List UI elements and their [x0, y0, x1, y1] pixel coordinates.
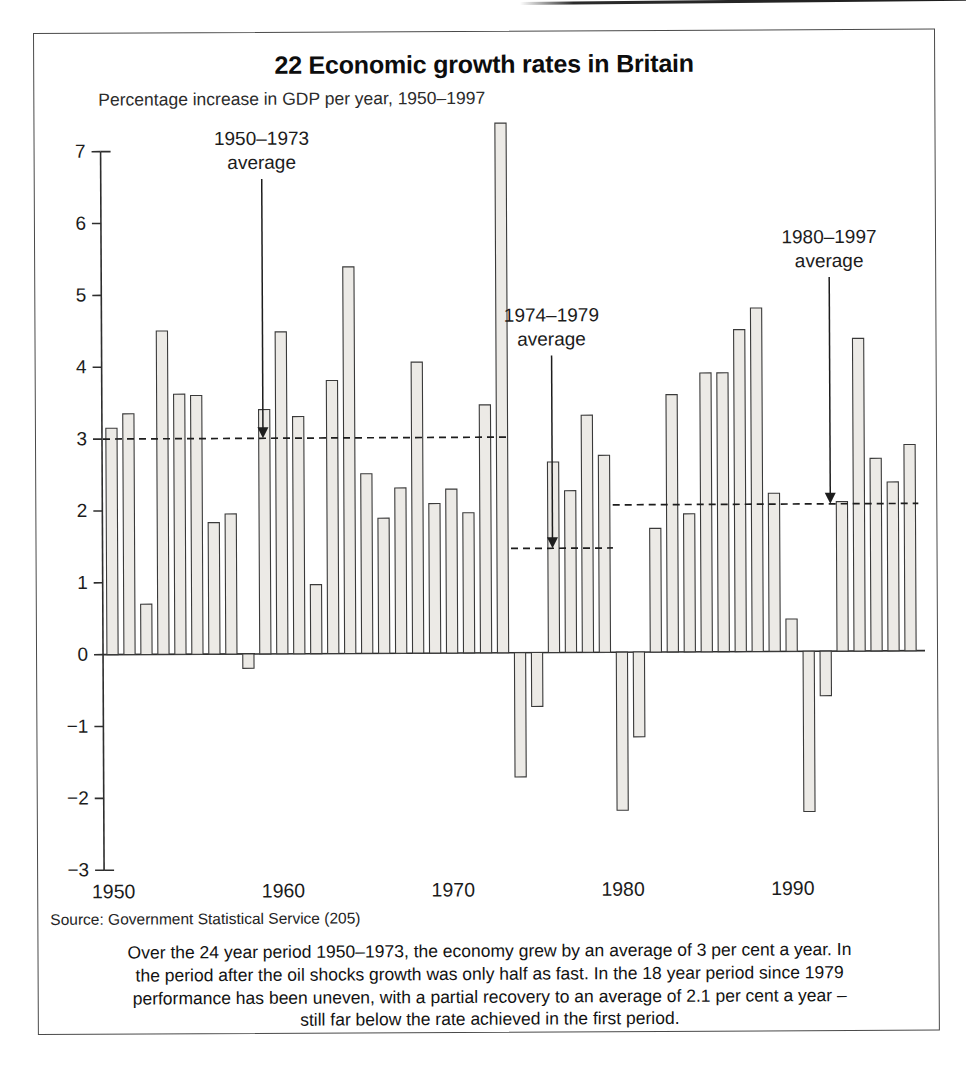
bar-1975	[531, 653, 542, 707]
y-tick-label-6: 6	[75, 213, 86, 234]
bar-1986	[717, 373, 730, 652]
bar-1960	[275, 332, 288, 654]
annotation-arrow-head-3	[825, 493, 836, 504]
bar-1954	[174, 394, 186, 654]
bar-1994	[852, 338, 865, 651]
figure-box: 22 Economic growth rates in Britain Perc…	[33, 29, 940, 1035]
bar-rect-1995	[870, 458, 882, 651]
bar-1953	[156, 331, 169, 654]
bar-1997	[904, 444, 916, 650]
x-tick-label-1970: 1970	[432, 878, 476, 900]
bar-1970	[446, 489, 458, 653]
bar-1996	[887, 482, 899, 651]
annotation-label-2-line2: average	[517, 328, 586, 349]
bar-1967	[395, 488, 407, 653]
annotation-arrow-shaft-2	[552, 355, 553, 539]
bar-rect-1958	[243, 654, 254, 668]
bar-rect-1962	[310, 585, 322, 654]
annotation-label-2-line1: 1974–1979	[504, 304, 599, 325]
caption-line-3: performance has been uneven, with a part…	[57, 983, 923, 1010]
bar-1995	[870, 458, 882, 651]
bar-rect-1959	[259, 410, 271, 654]
bar-rect-1951	[123, 414, 135, 655]
y-tick-label-4: 4	[76, 356, 87, 377]
scan-edge-artifact	[520, 0, 966, 5]
annotation-label-3-line2: average	[795, 250, 864, 271]
y-tick-label--2: −2	[67, 787, 89, 808]
bar-rect-1957	[225, 514, 237, 654]
x-tick-label-1960: 1960	[262, 879, 306, 901]
annotation-label-3-line1: 1980–1997	[781, 226, 876, 247]
bar-1951	[123, 414, 135, 655]
chart-annotations: 1950–1973average1974–1979average1980–199…	[214, 125, 878, 550]
caption-line-4: still far below the rate achieved in the…	[57, 1006, 923, 1033]
annotation-arrow-shaft-3	[829, 277, 830, 495]
y-tick-label-0: 0	[77, 644, 88, 665]
source-note: Source: Government Statistical Service (…	[50, 909, 360, 929]
bar-rect-1968	[411, 362, 424, 653]
y-tick-label-2: 2	[77, 500, 88, 521]
bar-1992	[820, 651, 831, 696]
bar-rect-1992	[820, 651, 831, 696]
y-tick-label-5: 5	[76, 284, 87, 305]
bar-rect-1982	[650, 528, 662, 652]
bar-rect-1994	[852, 338, 865, 651]
annotation-label-1-line1: 1950–1973	[214, 128, 309, 149]
bar-1952	[141, 604, 152, 654]
bar-1978	[581, 415, 593, 652]
bar-rect-1963	[326, 380, 339, 653]
bar-rect-1997	[904, 444, 916, 650]
bar-rect-1971	[463, 513, 475, 653]
x-tick-label-1990: 1990	[771, 877, 815, 899]
bar-1957	[225, 514, 237, 654]
bar-rect-1966	[378, 518, 390, 653]
bar-chart-plot: 76543210−1−2−319501960197019801990 1950–…	[34, 30, 939, 1034]
bar-1974	[514, 653, 526, 777]
annotation-arrow-shaft-1	[262, 179, 263, 429]
chart-svg: 76543210−1−2−319501960197019801990 1950–…	[34, 30, 939, 1034]
bar-rect-1972	[479, 405, 491, 653]
bar-1950	[106, 428, 118, 654]
bar-rect-1973	[495, 123, 509, 653]
bar-rect-1979	[598, 455, 610, 652]
bar-1968	[411, 362, 424, 653]
bar-rect-1969	[429, 504, 441, 654]
bar-1966	[378, 518, 390, 653]
bar-rect-1991	[803, 651, 815, 811]
bar-1979	[598, 455, 610, 652]
bar-1973	[495, 123, 509, 653]
bar-1981	[633, 652, 645, 737]
chart-bars	[104, 121, 917, 815]
bar-1969	[429, 504, 441, 654]
bar-rect-1955	[191, 395, 203, 654]
bar-1990	[786, 619, 797, 651]
annotation-label-1-line2: average	[227, 152, 296, 173]
bar-1955	[191, 395, 203, 654]
bar-rect-1989	[768, 493, 780, 651]
bar-1972	[479, 405, 491, 653]
bar-rect-1978	[581, 415, 593, 652]
bar-1965	[361, 474, 373, 654]
bar-rect-1990	[786, 619, 797, 651]
bar-rect-1954	[174, 394, 186, 654]
bar-rect-1950	[106, 428, 118, 654]
bar-1988	[750, 308, 763, 652]
bar-1991	[803, 651, 815, 811]
bar-rect-1988	[750, 308, 763, 652]
bar-rect-1996	[887, 482, 899, 651]
y-tick-label-7: 7	[75, 141, 86, 162]
bar-rect-1974	[514, 653, 526, 777]
bar-1982	[650, 528, 662, 652]
bar-rect-1981	[633, 652, 645, 737]
bar-1959	[259, 410, 271, 654]
annotation-1: 1950–1973average	[214, 128, 311, 439]
bar-rect-1967	[395, 488, 407, 653]
bar-rect-1970	[446, 489, 458, 653]
bar-rect-1986	[717, 373, 730, 652]
y-tick-label--3: −3	[67, 859, 89, 880]
bar-rect-1985	[700, 373, 713, 652]
y-tick-label--1: −1	[67, 716, 89, 737]
bar-1964	[343, 267, 356, 654]
bar-1983	[666, 395, 678, 652]
bar-1962	[310, 585, 322, 654]
